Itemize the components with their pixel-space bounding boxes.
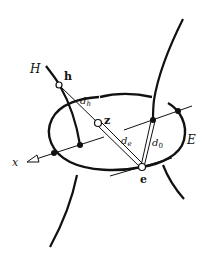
curve-upper-right — [153, 19, 183, 120]
label-e: e — [140, 173, 147, 186]
x-axis-arrowhead — [27, 155, 39, 162]
curve-H — [46, 66, 80, 145]
point-z — [95, 120, 102, 127]
label-E: E — [186, 133, 196, 147]
point-foot-d0 — [150, 117, 156, 123]
x-axis-line — [36, 137, 104, 159]
point-h — [56, 82, 62, 88]
point-e — [139, 164, 146, 171]
label-d-e: de — [121, 135, 132, 148]
label-z: z — [104, 114, 110, 127]
point-E-left — [51, 150, 57, 156]
ellipse-E-top-arc — [100, 94, 152, 97]
geometry-diagram: H h dh z de d0 E e x — [0, 0, 205, 262]
label-d-0: d0 — [152, 137, 163, 150]
label-x: x — [12, 156, 19, 169]
point-E-right — [175, 108, 181, 114]
segment-d-e-b — [97, 125, 141, 168]
curve-lower-left — [50, 175, 77, 247]
point-H-axis — [77, 142, 83, 148]
curve-lower-right — [163, 165, 184, 199]
label-H: H — [29, 62, 41, 76]
segment-d-h — [59, 85, 98, 123]
label-h: h — [64, 70, 72, 83]
